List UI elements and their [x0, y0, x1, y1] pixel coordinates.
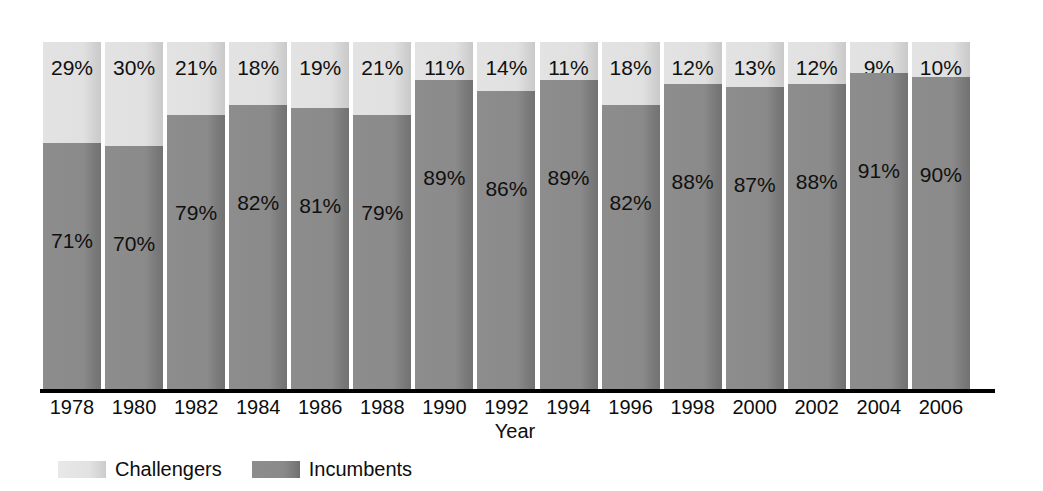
- bar-value-label: 70%: [105, 232, 163, 256]
- bar-segment-incumbents[interactable]: 88%: [788, 84, 846, 390]
- x-tick-label: 1996: [602, 396, 660, 419]
- bar-column[interactable]: 29%71%: [43, 42, 101, 390]
- x-tick-label: 1986: [291, 396, 349, 419]
- bar-value-label: 79%: [167, 201, 225, 225]
- x-axis-title: Year: [0, 420, 1030, 443]
- x-tick-label: 2000: [726, 396, 784, 419]
- bar-segment-incumbents[interactable]: 82%: [602, 105, 660, 390]
- chart-legend: ChallengersIncumbents: [58, 458, 428, 481]
- bar-column[interactable]: 18%82%: [229, 42, 287, 390]
- bar-segment-incumbents[interactable]: 88%: [664, 84, 722, 390]
- bar-value-label: 12%: [788, 56, 846, 80]
- bar-column[interactable]: 9%91%: [850, 42, 908, 390]
- bar-column[interactable]: 11%89%: [415, 42, 473, 390]
- bar-value-label: 18%: [229, 56, 287, 80]
- chart-page: 29%71%30%70%21%79%18%82%19%81%21%79%11%8…: [0, 0, 1043, 491]
- bar-column[interactable]: 11%89%: [540, 42, 598, 390]
- legend-label: Incumbents: [309, 458, 412, 481]
- bar-value-label: 21%: [167, 56, 225, 80]
- bar-column[interactable]: 30%70%: [105, 42, 163, 390]
- bar-segment-incumbents[interactable]: 90%: [912, 77, 970, 390]
- bar-segment-incumbents[interactable]: 71%: [43, 143, 101, 390]
- x-tick-label: 1998: [664, 396, 722, 419]
- bar-value-label: 86%: [477, 177, 535, 201]
- legend-label: Challengers: [115, 458, 222, 481]
- bar-value-label: 87%: [726, 173, 784, 197]
- bar-segment-challengers[interactable]: 9%: [850, 42, 908, 73]
- bar-segment-incumbents[interactable]: 70%: [105, 146, 163, 390]
- x-axis-line: [40, 389, 995, 393]
- x-axis-tick-labels: 1978198019821984198619881990199219941996…: [43, 396, 970, 419]
- bar-segment-incumbents[interactable]: 79%: [353, 115, 411, 390]
- x-tick-label: 1982: [167, 396, 225, 419]
- bar-segment-challengers[interactable]: 14%: [477, 42, 535, 91]
- bar-value-label: 71%: [43, 229, 101, 253]
- bar-segment-incumbents[interactable]: 87%: [726, 87, 784, 390]
- bar-segment-incumbents[interactable]: 91%: [850, 73, 908, 390]
- bar-value-label: 11%: [415, 56, 473, 80]
- bar-segment-challengers[interactable]: 10%: [912, 42, 970, 77]
- bar-segment-challengers[interactable]: 30%: [105, 42, 163, 146]
- bar-value-label: 18%: [602, 56, 660, 80]
- bar-column[interactable]: 14%86%: [477, 42, 535, 390]
- bar-segment-challengers[interactable]: 19%: [291, 42, 349, 108]
- bar-value-label: 30%: [105, 56, 163, 80]
- bar-segment-challengers[interactable]: 12%: [788, 42, 846, 84]
- bar-segment-challengers[interactable]: 11%: [415, 42, 473, 80]
- bar-segment-incumbents[interactable]: 81%: [291, 108, 349, 390]
- bar-segment-challengers[interactable]: 18%: [602, 42, 660, 105]
- x-tick-label: 1990: [415, 396, 473, 419]
- bar-value-label: 79%: [353, 201, 411, 225]
- bar-value-label: 89%: [415, 166, 473, 190]
- bar-column[interactable]: 21%79%: [353, 42, 411, 390]
- bar-column[interactable]: 12%88%: [788, 42, 846, 390]
- bar-segment-challengers[interactable]: 11%: [540, 42, 598, 80]
- bar-segment-challengers[interactable]: 18%: [229, 42, 287, 105]
- bar-value-label: 89%: [540, 166, 598, 190]
- bar-column[interactable]: 13%87%: [726, 42, 784, 390]
- x-tick-label: 1978: [43, 396, 101, 419]
- x-tick-label: 1992: [477, 396, 535, 419]
- bar-segment-incumbents[interactable]: 82%: [229, 105, 287, 390]
- x-tick-label: 1994: [540, 396, 598, 419]
- legend-swatch-icon: [252, 461, 300, 478]
- bar-value-label: 21%: [353, 56, 411, 80]
- legend-item[interactable]: Challengers: [58, 458, 222, 481]
- bar-value-label: 88%: [788, 170, 846, 194]
- legend-swatch-icon: [58, 461, 106, 478]
- bar-segment-incumbents[interactable]: 89%: [415, 80, 473, 390]
- bar-value-label: 91%: [850, 159, 908, 183]
- bar-segment-incumbents[interactable]: 86%: [477, 91, 535, 390]
- bar-value-label: 82%: [602, 191, 660, 215]
- x-tick-label: 1988: [353, 396, 411, 419]
- bar-column[interactable]: 10%90%: [912, 42, 970, 390]
- bar-value-label: 82%: [229, 191, 287, 215]
- bar-value-label: 29%: [43, 56, 101, 80]
- bar-segment-incumbents[interactable]: 89%: [540, 80, 598, 390]
- bar-column[interactable]: 12%88%: [664, 42, 722, 390]
- bar-value-label: 90%: [912, 163, 970, 187]
- bar-segment-challengers[interactable]: 13%: [726, 42, 784, 87]
- x-tick-label: 1984: [229, 396, 287, 419]
- bar-column[interactable]: 19%81%: [291, 42, 349, 390]
- bar-value-label: 13%: [726, 56, 784, 80]
- bar-segment-challengers[interactable]: 29%: [43, 42, 101, 143]
- x-tick-label: 2002: [788, 396, 846, 419]
- bar-segment-challengers[interactable]: 12%: [664, 42, 722, 84]
- bar-column[interactable]: 21%79%: [167, 42, 225, 390]
- bar-value-label: 14%: [477, 56, 535, 80]
- bar-segment-incumbents[interactable]: 79%: [167, 115, 225, 390]
- bar-segment-challengers[interactable]: 21%: [353, 42, 411, 115]
- bar-value-label: 12%: [664, 56, 722, 80]
- legend-item[interactable]: Incumbents: [252, 458, 412, 481]
- bar-value-label: 11%: [540, 56, 598, 80]
- x-tick-label: 2006: [912, 396, 970, 419]
- bar-value-label: 88%: [664, 170, 722, 194]
- bar-segment-challengers[interactable]: 21%: [167, 42, 225, 115]
- x-tick-label: 1980: [105, 396, 163, 419]
- chart-plot-area: 29%71%30%70%21%79%18%82%19%81%21%79%11%8…: [43, 42, 970, 390]
- bar-column[interactable]: 18%82%: [602, 42, 660, 390]
- bar-value-label: 81%: [291, 194, 349, 218]
- bar-value-label: 19%: [291, 56, 349, 80]
- x-tick-label: 2004: [850, 396, 908, 419]
